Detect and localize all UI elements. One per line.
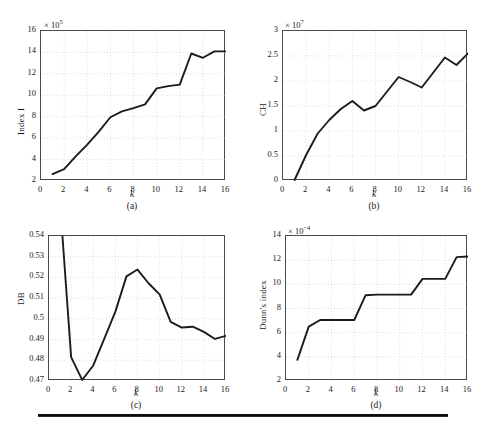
panel-b-caption: (b) — [354, 201, 394, 211]
figure-container: × 105 Index I 0246810121416 246810121416… — [0, 0, 485, 432]
y-tick-label: 4 — [2, 153, 36, 163]
panel-c-plot-area — [48, 235, 225, 380]
x-tick-label: 14 — [433, 384, 455, 394]
x-tick-label: 2 — [297, 384, 319, 394]
panel-c-xlabel: k — [121, 388, 151, 398]
x-tick-label: 2 — [59, 384, 81, 394]
panel-c-caption: (c) — [116, 400, 156, 410]
x-tick-label: 14 — [433, 184, 455, 194]
y-tick-label: 0.5 — [10, 312, 44, 322]
x-tick-label: 16 — [214, 384, 236, 394]
y-tick-label: 2.5 — [244, 49, 278, 59]
x-tick-label: 0 — [271, 184, 293, 194]
panel-b-xlabel: k — [359, 189, 389, 199]
y-tick-label: 0.49 — [10, 333, 44, 343]
data-series-line — [60, 236, 226, 380]
x-tick-label: 12 — [411, 384, 433, 394]
y-tick-label: 6 — [247, 326, 281, 336]
y-tick-label: 0 — [244, 174, 278, 184]
y-tick-label: 1 — [244, 124, 278, 134]
y-tick-label: 1.5 — [244, 99, 278, 109]
y-tick-label: 0.52 — [10, 270, 44, 280]
y-tick-label: 6 — [2, 131, 36, 141]
panel-b-plot-area — [282, 30, 467, 180]
y-tick-label: 12 — [247, 253, 281, 263]
y-tick-label: 2 — [2, 174, 36, 184]
y-tick-label: 0.47 — [10, 374, 44, 384]
x-tick-label: 0 — [37, 384, 59, 394]
y-tick-label: 0.53 — [10, 250, 44, 260]
x-tick-label: 0 — [29, 184, 51, 194]
x-tick-label: 0 — [274, 384, 296, 394]
y-tick-label: 4 — [247, 350, 281, 360]
gridlines — [41, 31, 226, 181]
y-tick-label: 8 — [247, 302, 281, 312]
x-tick-label: 14 — [191, 184, 213, 194]
x-tick-label: 4 — [317, 184, 339, 194]
figure-bottom-rule — [38, 414, 448, 417]
panel-d-plot-area — [285, 235, 467, 380]
x-tick-label: 2 — [294, 184, 316, 194]
y-tick-label: 10 — [2, 88, 36, 98]
y-tick-label: 8 — [2, 110, 36, 120]
y-tick-label: 2 — [247, 374, 281, 384]
x-tick-label: 10 — [145, 184, 167, 194]
panel-a-xlabel: k — [117, 189, 147, 199]
x-tick-label: 12 — [170, 384, 192, 394]
x-tick-label: 4 — [81, 384, 103, 394]
y-tick-label: 12 — [2, 67, 36, 77]
y-tick-label: 10 — [247, 277, 281, 287]
x-tick-label: 10 — [387, 184, 409, 194]
exponent-superscript: 7 — [300, 18, 303, 25]
x-tick-label: 10 — [388, 384, 410, 394]
x-tick-label: 16 — [456, 384, 478, 394]
x-tick-label: 12 — [410, 184, 432, 194]
y-tick-label: 0.5 — [244, 149, 278, 159]
x-tick-label: 2 — [52, 184, 74, 194]
x-tick-label: 4 — [75, 184, 97, 194]
y-tick-label: 2 — [244, 74, 278, 84]
x-tick-label: 12 — [168, 184, 190, 194]
gridlines — [49, 236, 226, 381]
panel-a-plot-area — [40, 30, 225, 180]
panel-d-caption: (d) — [356, 400, 396, 410]
y-tick-label: 14 — [2, 45, 36, 55]
y-tick-label: 14 — [247, 229, 281, 239]
panel-d-xlabel: k — [361, 388, 391, 398]
x-tick-label: 14 — [192, 384, 214, 394]
exponent-superscript: −4 — [303, 224, 310, 231]
x-tick-label: 16 — [456, 184, 478, 194]
y-tick-label: 16 — [2, 24, 36, 34]
gridlines — [286, 236, 468, 381]
y-tick-label: 0.54 — [10, 229, 44, 239]
data-series-line — [295, 54, 468, 181]
panel-a-caption: (a) — [112, 201, 152, 211]
x-tick-label: 16 — [214, 184, 236, 194]
y-tick-label: 0.48 — [10, 353, 44, 363]
y-tick-label: 0.51 — [10, 291, 44, 301]
y-tick-label: 3 — [244, 24, 278, 34]
x-tick-label: 4 — [320, 384, 342, 394]
panel-a-exponent: × 105 — [44, 18, 63, 30]
panel-b-exponent: × 107 — [285, 18, 304, 30]
exponent-superscript: 5 — [59, 18, 62, 25]
data-series-line — [297, 257, 468, 360]
data-series-line — [53, 51, 226, 174]
